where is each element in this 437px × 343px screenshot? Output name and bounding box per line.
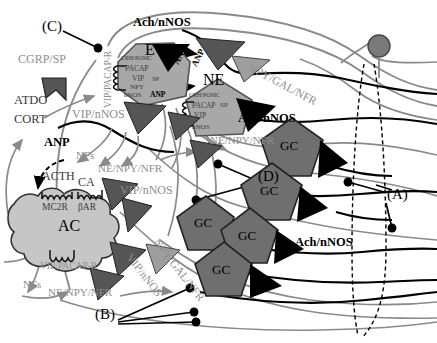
- label-ne-npy-nfr-bottom: NE/NPY/NFR: [48, 287, 112, 298]
- label-ne-npy-nfr-mid: NE/NPY/NFR: [210, 135, 274, 146]
- callout-C: (C): [42, 19, 62, 34]
- label-nfs-upper: NFs: [76, 150, 94, 161]
- synaptic-bouton: [297, 186, 328, 222]
- e-content-nnos: nNOS: [124, 92, 142, 99]
- cell-label-NE: NE: [203, 72, 224, 88]
- label-cort: CORT: [14, 113, 47, 126]
- ne-content-vip: VIP: [194, 112, 206, 120]
- ganglion-cell-label: GC: [194, 216, 212, 229]
- label-ach-nnos-top: Ach/nNOS: [133, 16, 191, 29]
- label-acth: ACTH: [42, 170, 75, 182]
- ganglion-cell-label: GC: [212, 263, 230, 276]
- label-nfs-lower: NFs: [23, 279, 41, 290]
- neuron-soma: [368, 35, 390, 57]
- label-vip-nnos-upper: VIP/nNOS: [72, 108, 125, 120]
- e-content-vip: VIP: [132, 75, 144, 83]
- ne-content-sp: SP: [220, 102, 228, 109]
- synaptic-bouton: [318, 140, 348, 178]
- e-content-npy: NPY: [130, 84, 144, 91]
- label-mc2r: MC2R: [42, 203, 68, 213]
- preganglionic-neuron: [368, 35, 390, 78]
- label-ach-nnos-low: Ach/nNOS: [295, 236, 353, 249]
- e-content-crh-pomc: CRH/POMC: [121, 55, 152, 61]
- label-anp-left: ANP: [44, 136, 70, 149]
- ne-content-crh-pomc: CRH/POMC: [189, 92, 220, 98]
- label-cgrp-sp: CGRP/SP: [18, 53, 66, 65]
- ne-content-nnos: nNOS: [192, 124, 210, 131]
- label-vip-pacap-r-ac: VIP/PACAP-R: [40, 262, 97, 272]
- synaptic-bouton: [250, 264, 282, 298]
- label-ne-npy-nfr-left: NE/NPY/NFR: [98, 163, 162, 174]
- cell-label-AC: AC: [58, 218, 80, 234]
- e-content-sp: SP: [152, 76, 159, 83]
- e-content-pacap: PACAP: [125, 65, 149, 73]
- nerve-terminal-dark: [124, 102, 166, 134]
- label-ca: CA: [78, 176, 95, 188]
- label-atdo: ATDO: [14, 94, 47, 107]
- label-vip-nnos-mid: VIP/nNOS: [120, 184, 173, 196]
- callout-D: (D): [258, 169, 279, 184]
- ne-content-pacap: PACAP: [192, 102, 216, 110]
- label-vip-pacap-r-vertical: VIP/PACAP-R: [104, 51, 114, 108]
- label-ach-nnos-mid: Ach/nNOS: [238, 112, 296, 125]
- figure-canvas: (C) (B) (D) (A) E NE AC GC GC GC GC GC C…: [0, 0, 437, 343]
- callout-B: (B): [95, 307, 115, 322]
- e-content-anp: ANP: [150, 91, 165, 99]
- callout-A: (A): [387, 187, 408, 202]
- ganglion-cell-label: GC: [280, 139, 298, 152]
- ganglion-cell-label: GC: [260, 184, 278, 197]
- label-bar: βAR: [78, 203, 96, 213]
- ganglion-cell-label: GC: [238, 229, 256, 242]
